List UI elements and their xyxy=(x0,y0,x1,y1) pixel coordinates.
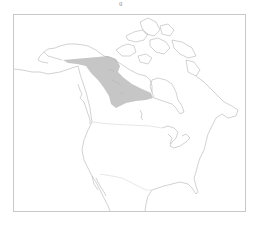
north-america-map xyxy=(0,0,257,225)
us-canada-border xyxy=(92,122,162,128)
gulf-coastline xyxy=(145,182,188,211)
labrador-coastline xyxy=(188,76,238,194)
lake-winnipeg xyxy=(140,110,143,120)
us-west-coastline xyxy=(82,122,110,211)
us-mexico-border xyxy=(100,174,152,190)
arctic-archipelago xyxy=(116,18,200,76)
hudson-bay-coastline xyxy=(150,78,184,114)
alaska-canada-border xyxy=(78,66,92,122)
shaded-range-area xyxy=(63,56,153,108)
bc-coastline xyxy=(78,84,90,124)
great-lakes xyxy=(162,126,190,148)
